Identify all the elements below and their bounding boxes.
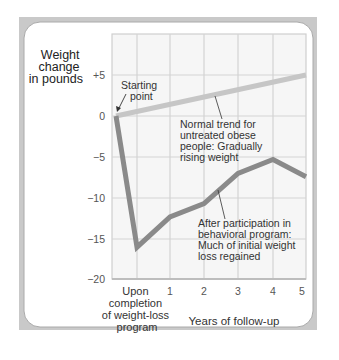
x-tick-label: 4 [270,285,276,297]
x-axis-label: Years of follow-up [189,315,280,327]
y-tick-label: −5 [93,151,105,163]
y-tick-label: −15 [87,233,105,245]
y-tick-label: −20 [87,273,105,285]
x-tick-label: 5 [299,285,305,297]
x-tick-label: 3 [235,285,241,297]
y-tick-label: +5 [93,69,105,81]
y-tick-label: −10 [87,192,105,204]
y-tick-label: 0 [99,110,105,122]
x-tick-label: 2 [201,285,207,297]
x-tick-label: 1 [167,285,173,297]
weight-change-chart: Weight change in pounds +5 0 −5 −10 −15 … [0,0,339,360]
